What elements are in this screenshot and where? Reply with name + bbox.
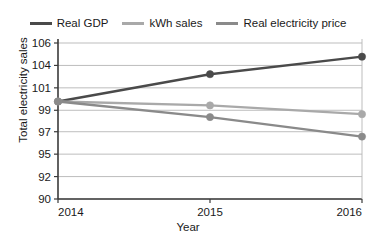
chart-figure: Real GDP kWh sales Real electricity pric…	[0, 0, 376, 242]
y-tick-label: 106	[32, 37, 51, 49]
series-data-point	[358, 111, 365, 118]
series-data-point	[206, 114, 213, 121]
series-data-point	[358, 53, 365, 60]
chart-gridlines	[58, 43, 362, 199]
y-tick-label: 97	[38, 126, 51, 138]
series-data-point	[54, 98, 61, 105]
y-tick-label: 92	[38, 171, 51, 183]
y-tick-label: 95	[38, 148, 51, 160]
x-tick-label: 2016	[336, 206, 362, 218]
y-tick-label: 101	[32, 82, 51, 94]
series-data-point	[358, 133, 365, 140]
x-axis-ticks: 201420152016	[58, 199, 362, 218]
y-tick-label: 90	[38, 193, 51, 205]
chart-series-group	[54, 53, 365, 140]
y-axis-ticks: 9092959799101104106	[32, 37, 58, 205]
x-tick-label: 2015	[197, 206, 223, 218]
series-line	[58, 57, 362, 102]
chart-plot-area: 9092959799101104106 201420152016	[0, 0, 376, 242]
y-tick-label: 104	[32, 59, 52, 71]
y-tick-label: 99	[38, 104, 51, 116]
series-data-point	[206, 71, 213, 78]
series-data-point	[206, 102, 213, 109]
x-tick-label: 2014	[58, 206, 84, 218]
